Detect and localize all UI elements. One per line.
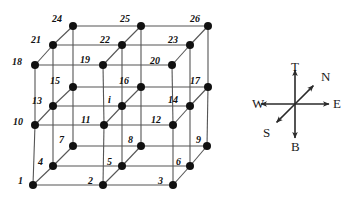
lattice-node-label: 22 <box>100 35 110 45</box>
lattice-edge <box>103 65 104 125</box>
lattice-node-label: 23 <box>168 35 178 45</box>
lattice-edge <box>53 87 73 106</box>
compass-label-south: S <box>263 126 270 139</box>
compass-label-north: N <box>321 70 330 83</box>
lattice-node-label: 18 <box>12 57 22 67</box>
lattice-edge <box>103 125 104 185</box>
lattice-node[interactable] <box>99 61 107 69</box>
lattice-node[interactable] <box>204 22 212 30</box>
lattice-node[interactable] <box>49 162 57 170</box>
lattice-edge <box>35 45 53 65</box>
lattice-edge <box>53 26 73 45</box>
lattice-edge <box>207 87 208 146</box>
lattice-node-label: 6 <box>176 157 181 167</box>
lattice-node-label: 9 <box>196 135 201 145</box>
lattice-node-label: 14 <box>168 95 178 105</box>
lattice-node[interactable] <box>118 102 126 110</box>
lattice-node[interactable] <box>69 83 77 91</box>
compass-label-bottom: B <box>291 140 300 153</box>
lattice-node[interactable] <box>168 61 176 69</box>
lattice-node-label: 20 <box>150 56 160 66</box>
lattice-node-label: 8 <box>128 135 133 145</box>
lattice-node[interactable] <box>49 102 57 110</box>
compass-label-east: E <box>333 97 341 110</box>
lattice-node[interactable] <box>186 41 194 49</box>
lattice-node[interactable] <box>49 41 57 49</box>
compass-arrows <box>261 70 329 138</box>
lattice-node[interactable] <box>186 102 194 110</box>
lattice-node[interactable] <box>69 142 77 150</box>
lattice-edge <box>33 166 53 185</box>
lattice-node[interactable] <box>31 61 39 69</box>
lattice-node-label: 5 <box>107 157 112 167</box>
lattice-edge <box>172 45 190 65</box>
lattice-edge <box>53 146 73 166</box>
lattice-node-label: 11 <box>81 115 90 125</box>
lattice-node-label: 3 <box>158 176 163 186</box>
lattice-node[interactable] <box>99 181 107 189</box>
lattice-node[interactable] <box>118 41 126 49</box>
lattice-node-label: 2 <box>88 176 93 186</box>
lattice-node-label: 10 <box>13 117 23 127</box>
lattice-node-label: 17 <box>190 76 200 86</box>
lattice-node[interactable] <box>100 121 108 129</box>
lattice-node[interactable] <box>186 162 194 170</box>
lattice-node[interactable] <box>203 142 211 150</box>
lattice-node-label: 12 <box>151 115 161 125</box>
lattice-node[interactable] <box>31 121 39 129</box>
lattice-node[interactable] <box>137 83 145 91</box>
diagram-canvas: 12345678910111213i1415161718192021222324… <box>0 0 351 203</box>
lattice-edge <box>122 26 141 45</box>
compass-arrow-south <box>277 104 295 122</box>
lattice-node[interactable] <box>169 181 177 189</box>
compass-arrow-north <box>295 86 313 104</box>
lattice-edge <box>122 146 141 166</box>
lattice-node-label: 24 <box>52 14 62 24</box>
lattice-node[interactable] <box>137 142 145 150</box>
lattice-node-label: 25 <box>120 14 130 24</box>
lattice-node-label: 4 <box>38 157 43 167</box>
lattice-node[interactable] <box>29 181 37 189</box>
lattice-node-label: 7 <box>59 135 64 145</box>
lattice-node-label: i <box>108 95 111 105</box>
lattice-node-label: 21 <box>31 35 41 45</box>
lattice-node[interactable] <box>204 83 212 91</box>
lattice-node-label: 1 <box>18 176 23 186</box>
lattice-node-label: 13 <box>32 96 42 106</box>
lattice-node-label: 15 <box>50 76 60 86</box>
lattice-node[interactable] <box>137 22 145 30</box>
compass-label-west: W <box>252 97 264 110</box>
compass-label-top: T <box>291 60 299 73</box>
lattice-edge <box>122 87 141 106</box>
lattice-node-label: 26 <box>190 14 200 24</box>
lattice-edge <box>33 125 35 185</box>
lattice-node[interactable] <box>169 121 177 129</box>
lattice-node[interactable] <box>118 162 126 170</box>
lattice-edge <box>103 166 122 185</box>
lattice-node-label: 19 <box>80 55 90 65</box>
lattice-edge <box>103 45 122 65</box>
lattice-node[interactable] <box>69 22 77 30</box>
lattice-node-label: 16 <box>119 76 129 86</box>
